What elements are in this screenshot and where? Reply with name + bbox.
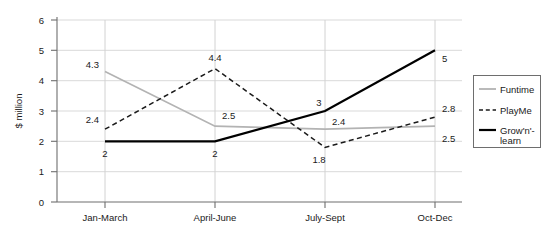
y-axis-title: $ million <box>13 94 24 129</box>
data-labels-grownlearn: 2 2 3 5 <box>102 53 447 159</box>
legend-label-continued: learn <box>500 135 521 146</box>
x-tick-label: April-June <box>194 212 237 223</box>
data-label: 4.4 <box>208 52 221 63</box>
y-tick-label: 6 <box>39 15 44 26</box>
chart-canvas: 6 5 4 3 2 1 0 $ million Jan-March April-… <box>0 0 555 236</box>
y-tick-label: 4 <box>39 75 44 86</box>
x-tick-label: Jan-March <box>83 212 128 223</box>
data-label: 2 <box>212 148 217 159</box>
data-labels-funtime: 4.3 2.5 2.4 2.5 <box>86 59 455 144</box>
axis-spines <box>57 17 462 202</box>
legend-label: Grow'n'- <box>500 125 535 136</box>
y-tick-label: 5 <box>39 45 44 56</box>
y-tick-label: 1 <box>39 166 44 177</box>
y-tick-marks <box>51 20 57 202</box>
data-label: 3 <box>316 97 321 108</box>
x-tick-label: Oct-Dec <box>418 212 453 223</box>
x-tick-label: July-Sept <box>305 212 345 223</box>
data-label: 2.5 <box>442 133 455 144</box>
x-tick-labels: Jan-March April-June July-Sept Oct-Dec <box>83 212 453 223</box>
data-label: 1.8 <box>312 154 325 165</box>
data-label: 5 <box>442 53 447 64</box>
legend-label: PlayMe <box>500 105 532 116</box>
chart-legend[interactable]: Funtime PlayMe Grow'n'- learn <box>474 76 541 148</box>
horizontal-gridlines <box>57 20 462 172</box>
line-chart: 6 5 4 3 2 1 0 $ million Jan-March April-… <box>0 0 555 236</box>
y-tick-label: 0 <box>39 197 44 208</box>
data-label: 2 <box>102 148 107 159</box>
data-label: 2.4 <box>86 114 99 125</box>
legend-label: Funtime <box>500 84 534 95</box>
x-tick-marks <box>105 202 435 208</box>
data-label: 2.4 <box>332 116 345 127</box>
y-tick-label: 3 <box>39 106 44 117</box>
y-tick-labels: 6 5 4 3 2 1 0 <box>39 15 44 208</box>
chart-figure-root: 6 5 4 3 2 1 0 $ million Jan-March April-… <box>0 0 555 236</box>
data-label: 4.3 <box>86 59 99 70</box>
data-label: 2.8 <box>442 103 455 114</box>
y-tick-label: 2 <box>39 136 44 147</box>
data-label: 2.5 <box>222 110 235 121</box>
